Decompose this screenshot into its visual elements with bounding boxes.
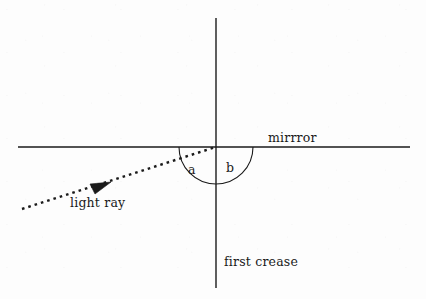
- angle-a-label: a: [188, 164, 196, 177]
- diagram-canvas: [0, 0, 426, 299]
- light-ray-arrowhead: [90, 182, 111, 194]
- first-crease-label: first crease: [224, 256, 298, 269]
- mirror-label: mirrror: [268, 132, 317, 145]
- angle-b-label: b: [226, 162, 234, 175]
- light-ray-label: light ray: [70, 197, 125, 210]
- light-ray-mirror-diagram: mirrror light ray first crease a b: [0, 0, 426, 299]
